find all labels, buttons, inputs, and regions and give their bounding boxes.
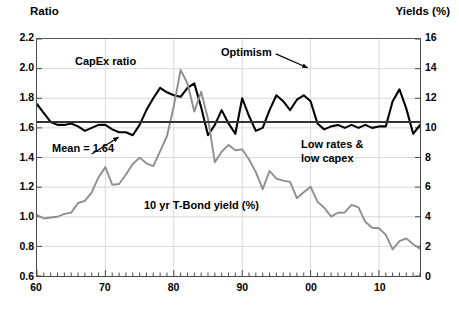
right-tick-12: 12 — [425, 91, 451, 103]
annotation-capex-ratio: CapEx ratio — [75, 55, 136, 68]
annotation-arrows — [37, 39, 420, 276]
right-tick-6: 6 — [425, 180, 451, 192]
annotation-low-rates-line1: Low rates & — [301, 138, 363, 151]
right-tick-2: 2 — [425, 240, 451, 252]
x-tick-70: 70 — [90, 281, 120, 293]
left-tick-2-2: 2.2 — [8, 31, 34, 43]
left-tick-2-0: 2.0 — [8, 61, 34, 73]
left-axis-tick-labels: 2.22.01.81.61.41.21.00.80.6 — [0, 38, 34, 277]
left-tick-1-2: 1.2 — [8, 180, 34, 192]
capex-ratio-vs-tbond-yield-chart: Ratio Yields (%) 2.22.01.81.61.41.21.00.… — [0, 0, 459, 311]
left-axis-title: Ratio — [30, 5, 59, 17]
left-tick-1-4: 1.4 — [8, 151, 34, 163]
x-tick-00: 00 — [296, 281, 326, 293]
right-tick-14: 14 — [425, 61, 451, 73]
right-axis-tick-labels: 1614121086420 — [425, 38, 459, 277]
x-tick-60: 60 — [21, 281, 51, 293]
annotation-tbond-yield: 10 yr T-Bond yield (%) — [144, 199, 259, 212]
right-tick-0: 0 — [425, 270, 451, 282]
right-tick-4: 4 — [425, 210, 451, 222]
x-tick-80: 80 — [159, 281, 189, 293]
x-tick-10: 10 — [365, 281, 395, 293]
x-axis-tick-labels: 607080900010 — [36, 279, 421, 299]
left-tick-1-0: 1.0 — [8, 210, 34, 222]
right-tick-10: 10 — [425, 121, 451, 133]
left-tick-1-8: 1.8 — [8, 91, 34, 103]
right-axis-title: Yields (%) — [395, 5, 450, 17]
plot-area: CapEx ratio Optimism Mean = 1.64 Low rat… — [36, 38, 421, 277]
annotation-optimism: Optimism — [221, 46, 272, 59]
left-tick-1-6: 1.6 — [8, 121, 34, 133]
right-tick-16: 16 — [425, 31, 451, 43]
annotation-low-rates-line2: low capex — [301, 152, 354, 165]
left-tick-0-8: 0.8 — [8, 240, 34, 252]
annotation-mean: Mean = 1.64 — [52, 142, 114, 155]
right-tick-8: 8 — [425, 151, 451, 163]
x-tick-90: 90 — [227, 281, 257, 293]
